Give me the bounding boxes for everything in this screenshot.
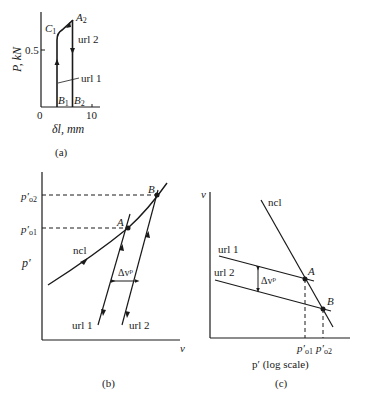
- panel-c-caption: (c): [275, 377, 288, 390]
- panel-a-url1-label: url 1: [81, 72, 101, 84]
- panel-c-ncl-label: ncl: [268, 196, 281, 208]
- panel-b-tick-po1: p′o1: [20, 223, 37, 237]
- panel-a-y-axis-label: P, kN: [10, 46, 24, 73]
- panel-b: Δvp p′o2 p′o1 p′ A B ncl url 1 url 2 v (…: [20, 172, 185, 390]
- panel-a-caption: (a): [55, 146, 68, 159]
- panel-c-x-axis-label: p′ (log scale): [252, 358, 309, 371]
- panel-b-url1-label: url 1: [72, 319, 92, 331]
- panel-b-ncl-arrow-icon: [80, 258, 88, 265]
- panel-c-tick-po2: p′o2: [315, 342, 332, 356]
- panel-a-label-A: A2: [75, 11, 87, 25]
- panel-c-delta-label: Δvp: [261, 275, 276, 286]
- panel-c-url2-line: [215, 280, 331, 311]
- panel-b-delta-label: Δvp: [118, 267, 133, 278]
- panel-a-x-tick-10: 10: [86, 109, 98, 121]
- panel-b-label-B: B: [148, 183, 155, 195]
- panel-b-tick-po2: p′o2: [20, 190, 37, 204]
- panel-a-x-axis-label: δl, mm: [52, 122, 85, 136]
- panel-a-arrow-up-icon: [55, 59, 60, 65]
- panel-a-label-B2: B2: [74, 94, 85, 108]
- panel-a: 0.5 0 10 C1 A2 B1 B2 url 2 url 1 P, kN δ…: [10, 11, 101, 159]
- figure-canvas: 0.5 0 10 C1 A2 B1 B2 url 2 url 1 P, kN δ…: [0, 0, 368, 407]
- panel-b-ncl-curve: [48, 183, 167, 285]
- panel-b-x-axis-label: v: [180, 342, 185, 354]
- panel-a-label-B1: B1: [58, 94, 69, 108]
- panel-b-url2-down-arrow-icon: [125, 311, 130, 318]
- panel-a-label-C: C1: [45, 22, 56, 36]
- panel-b-url2-label: url 2: [129, 319, 149, 331]
- panel-c-point-A: [303, 277, 308, 282]
- panel-b-ncl-label: ncl: [73, 244, 86, 256]
- panel-b-url2-line: [122, 190, 158, 325]
- panel-b-caption: (b): [102, 377, 115, 390]
- panel-c-label-A: A: [307, 265, 315, 277]
- panel-b-point-B: [155, 193, 160, 198]
- panel-b-point-A: [126, 226, 131, 231]
- panel-c-y-axis-label: v: [201, 188, 206, 200]
- panel-c: Δvp v ncl url 1 url 2 A B p′o1 p′o2 p′ (…: [201, 188, 350, 390]
- panel-a-y-tick-label: 0.5: [25, 44, 39, 56]
- panel-b-y-axis-label: p′: [21, 256, 31, 270]
- panel-b-label-A: A: [116, 216, 124, 228]
- panel-a-url2-label: url 2: [78, 33, 98, 45]
- panel-a-x-tick-0: 0: [37, 109, 43, 121]
- panel-c-url1-label: url 1: [218, 243, 238, 255]
- panel-a-arrow-down-icon: [70, 48, 75, 54]
- panel-a-url1-leader: [58, 78, 79, 83]
- panel-c-tick-po1: p′o1: [296, 342, 313, 356]
- panel-c-point-B: [321, 307, 326, 312]
- panel-c-url2-label: url 2: [214, 266, 234, 278]
- panel-c-label-B: B: [327, 295, 334, 307]
